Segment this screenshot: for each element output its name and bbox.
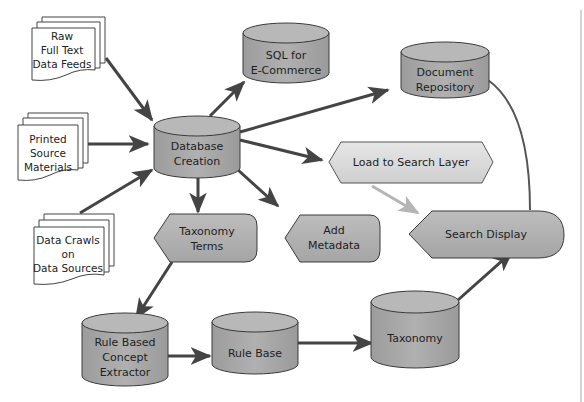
display-label: Add [323, 224, 344, 237]
display-add-metadata: Add Metadata [285, 215, 380, 262]
doc-label: on [61, 248, 74, 260]
document-crawls: Data Crawls on Data Sources [33, 214, 114, 284]
cylinder-label: Concept [102, 351, 148, 364]
document-printed: Printed Source Materials [18, 113, 88, 180]
display-taxonomy-terms: Taxonomy Terms [154, 214, 257, 262]
cylinder-label: E-Commerce [251, 64, 322, 77]
cylinder-rule-extractor: Rule Based Concept Extractor [82, 313, 168, 386]
doc-label: Source [30, 147, 66, 159]
arrow-raw-to-db [106, 58, 152, 120]
cylinder-label: Rule Based [94, 336, 155, 349]
arrow-db-to-sql [210, 82, 244, 116]
display-label: Terms [190, 240, 224, 253]
cylinder-label: Repository [416, 81, 475, 94]
display-label: Metadata [308, 239, 360, 252]
doc-label: Data Feeds [33, 58, 92, 70]
display-search: Search Display [409, 211, 564, 258]
arrow-load-to-display [372, 186, 418, 213]
doc-label: Data Sources [33, 262, 103, 274]
cylinder-label: Document [417, 66, 475, 79]
doc-label: Full Text [41, 44, 84, 56]
cylinder-label: Extractor [100, 366, 151, 379]
doc-label: Printed [29, 133, 66, 145]
cylinder-label: SQL for [266, 49, 307, 62]
display-label: Taxonomy [178, 225, 235, 238]
document-raw-feeds: Raw Full Text Data Feeds [32, 17, 105, 80]
display-load-search: Load to Search Layer [329, 142, 493, 183]
cylinder-rule-base: Rule Base [212, 312, 298, 374]
cylinder-taxonomy: Taxonomy [371, 291, 459, 368]
arrow-taxonomy-to-display [458, 252, 512, 300]
arrow-terms-to-extractor [136, 262, 172, 318]
cylinder-sql: SQL for E-Commerce [243, 23, 329, 83]
doc-label: Raw [51, 30, 73, 42]
doc-label: Data Crawls [36, 234, 99, 246]
cylinder-doc-repo: Document Repository [401, 42, 489, 98]
arrow-db-to-repo [240, 90, 388, 132]
cylinder-db-creation: Database Creation [154, 116, 240, 178]
cylinder-label: Creation [174, 155, 221, 168]
cylinder-label: Database [171, 140, 224, 153]
doc-label: Materials [24, 161, 72, 173]
cylinder-label: Rule Base [228, 347, 282, 360]
arrow-crawls-to-db [80, 170, 152, 213]
arrow-db-to-load [240, 140, 322, 160]
display-label: Search Display [445, 228, 527, 241]
display-label: Load to Search Layer [353, 156, 470, 169]
arrow-repo-to-display [488, 80, 530, 210]
cylinder-label: Taxonomy [386, 332, 443, 345]
flow-diagram: Raw Full Text Data Feeds Printed Source … [0, 0, 584, 402]
arrow-db-to-metadata [238, 170, 278, 206]
